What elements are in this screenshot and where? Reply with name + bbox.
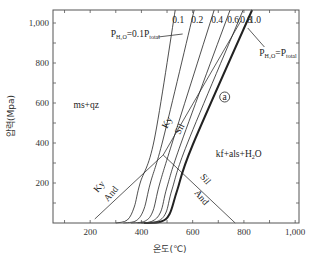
y-tick-label-0: 200: [36, 178, 50, 188]
x-tick-label-0: 200: [83, 227, 97, 237]
annotation-equal-label: PH₂O=Ptotal: [259, 48, 297, 59]
ratio-curves: [116, 10, 252, 223]
series-label-0-6: 0.6: [227, 15, 239, 25]
series-label-0-4: 0.4: [211, 15, 223, 25]
annotation-ky-2: Ky: [160, 115, 174, 130]
series-label-1-0: 1.0: [249, 15, 261, 25]
x-tick-label-3: 800: [237, 227, 251, 237]
phase-diagram-chart: 2004006008001,000 2004006008001,000 0.10…: [0, 0, 317, 263]
y-tick-label-2: 600: [36, 98, 50, 108]
leader-line-ratio-label: [158, 34, 183, 37]
series-label-0-2: 0.2: [191, 15, 203, 25]
annotation-kf-als: kf+als+H2O: [216, 149, 262, 160]
x-tick-label-2: 600: [186, 227, 200, 237]
leader-line-equal-label: [248, 28, 265, 47]
x-axis-title: 온도(℃): [153, 244, 186, 254]
annotation-and-2: And: [192, 188, 210, 207]
x-tick-labels: 2004006008001,000: [83, 227, 305, 237]
curve-0-8: [141, 10, 243, 223]
curve-0-6: [138, 10, 231, 223]
series-labels: 0.10.20.40.60.81.0: [172, 15, 261, 25]
y-tick-label-3: 800: [36, 58, 50, 68]
annotation-sil-2: Sil: [198, 172, 213, 187]
y-tick-label-4: 1,000: [29, 18, 50, 28]
x-tick-label-4: 1,000: [285, 227, 306, 237]
x-tick-label-1: 400: [135, 227, 149, 237]
annotation-ky-1: Ky: [92, 179, 107, 195]
series-label-0-1: 0.1: [172, 15, 184, 25]
annotation-ms-qz: ms+qz: [74, 100, 99, 110]
y-axis-title: 압력(Mpa): [5, 95, 16, 137]
y-tick-label-1: 400: [36, 138, 50, 148]
y-tick-labels: 2004006008001,000: [29, 18, 50, 188]
annotation-ratio-label: PH₂O=0.1Ptotal: [111, 29, 161, 40]
